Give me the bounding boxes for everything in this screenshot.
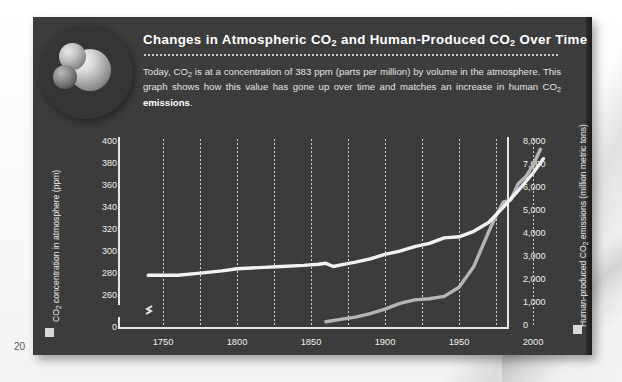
co2-chart: CO2 concentration in atmosphere (ppm) Hu… [33, 17, 592, 355]
series-line-emissions [326, 149, 541, 322]
figure-panel: Changes in Atmospheric CO2 and Human-Pro… [33, 17, 592, 355]
series-canvas [33, 17, 592, 355]
page-number: 20 [14, 341, 25, 352]
series-line-concentration [148, 159, 543, 276]
